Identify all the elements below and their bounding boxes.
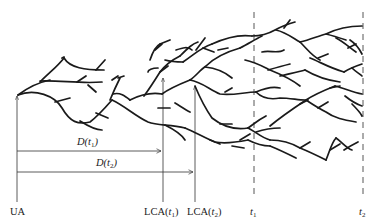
d-t2-prefix: D( [96, 157, 107, 168]
d-t2-label: D(t2) [96, 158, 117, 170]
t1-label: t1 [250, 207, 256, 219]
lca-t2-suffix: ) [218, 206, 222, 217]
d-t1-label: D(t1) [77, 137, 98, 149]
lineage-branches [18, 20, 362, 160]
lca-t1-label: LCA(t1) [144, 207, 178, 219]
lca-t1-prefix: LCA( [144, 206, 169, 217]
lca-t2-prefix: LCA( [187, 206, 212, 217]
t2-sub: 2 [362, 211, 366, 219]
d-t1-suffix: ) [95, 136, 99, 147]
t2-label: t2 [359, 207, 365, 219]
d-t2-suffix: ) [114, 157, 118, 168]
ua-label-text: UA [10, 206, 25, 217]
d-t1-prefix: D( [77, 136, 88, 147]
lca-t2-label: LCA(t2) [187, 207, 221, 219]
ua-label: UA [10, 207, 25, 218]
t1-sub: 1 [253, 211, 257, 219]
genealogy-diagram [0, 0, 375, 221]
lca-t1-suffix: ) [175, 206, 179, 217]
